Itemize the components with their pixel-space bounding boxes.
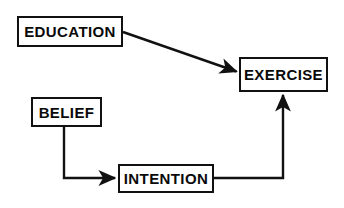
node-intention-label: INTENTION (124, 171, 208, 186)
node-belief-label: BELIEF (39, 105, 95, 120)
node-belief: BELIEF (31, 97, 102, 127)
edge-education-to-exercise (123, 32, 237, 72)
node-intention: INTENTION (118, 164, 214, 193)
edge-intention-to-exercise (214, 95, 283, 178)
node-exercise-label: EXERCISE (244, 67, 323, 82)
node-education-label: EDUCATION (24, 24, 116, 39)
diagram-canvas: EDUCATION EXERCISE BELIEF INTENTION (0, 0, 344, 208)
node-exercise: EXERCISE (239, 57, 328, 92)
node-education: EDUCATION (17, 16, 123, 47)
edge-belief-to-intention (64, 127, 115, 178)
